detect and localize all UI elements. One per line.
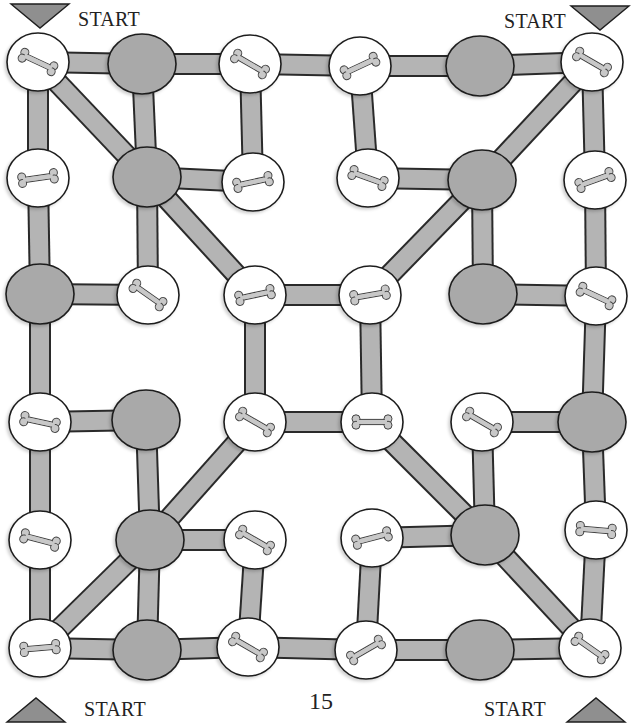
triangle-down-icon xyxy=(571,6,629,30)
gray-space[interactable] xyxy=(113,147,181,207)
page-number: 15 xyxy=(309,688,333,715)
gray-space[interactable] xyxy=(112,390,180,450)
start-label-bottom-right: START xyxy=(484,698,546,721)
gray-space[interactable] xyxy=(451,505,519,565)
gray-space[interactable] xyxy=(6,264,74,324)
start-label-bottom-left: START xyxy=(84,698,146,721)
game-board xyxy=(0,0,641,726)
gray-space[interactable] xyxy=(448,150,516,210)
gray-space[interactable] xyxy=(108,34,176,94)
gray-space[interactable] xyxy=(446,620,514,680)
triangle-down-icon xyxy=(11,4,69,28)
gray-space[interactable] xyxy=(116,510,184,570)
gray-space[interactable] xyxy=(113,620,181,680)
triangle-up-icon xyxy=(567,698,625,722)
triangle-up-icon xyxy=(7,698,65,722)
start-label-top-right: START xyxy=(504,10,566,33)
gray-space[interactable] xyxy=(449,264,517,324)
gray-space[interactable] xyxy=(446,36,514,96)
path-fills xyxy=(38,62,596,650)
start-label-top-left: START xyxy=(78,8,140,31)
gray-space[interactable] xyxy=(558,392,626,452)
